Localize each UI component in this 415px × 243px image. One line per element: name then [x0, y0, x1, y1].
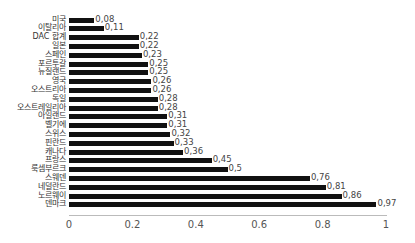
category-label: 노르웨이	[38, 191, 66, 200]
category-label: 스위스	[45, 129, 66, 138]
bar	[69, 97, 158, 102]
bar	[69, 62, 148, 67]
category-label: 영국	[52, 76, 66, 85]
bar	[69, 35, 139, 40]
value-label: 0,36	[184, 147, 203, 156]
value-label: 0,86	[343, 191, 362, 200]
bar	[69, 18, 94, 23]
horizontal-bar-chart: 미국0,08이탈리아0,11DAC 합계0,22일본0,22스페인0,23포르투…	[0, 0, 415, 243]
category-label: DAC 합계	[33, 32, 66, 41]
x-tick-label: 0	[66, 219, 72, 230]
category-label: 독일	[52, 94, 66, 103]
bar	[69, 158, 212, 163]
category-label: 아일랜드	[38, 111, 66, 120]
category-label: 네덜란드	[38, 182, 66, 191]
category-label: 룩셈부르크	[31, 164, 66, 173]
x-tick-label: 0.4	[188, 219, 204, 230]
bar	[69, 194, 342, 199]
x-tick-label: 0.8	[315, 219, 331, 230]
value-label: 0,5	[229, 164, 243, 173]
bar	[69, 141, 174, 146]
value-label: 0,11	[105, 23, 124, 32]
bar	[69, 150, 183, 155]
x-tick-label: 0.2	[124, 219, 140, 230]
x-axis-line	[69, 215, 387, 216]
category-label: 이탈리아	[38, 23, 66, 32]
bar	[69, 44, 139, 49]
bar	[69, 167, 228, 172]
category-label: 덴마크	[45, 199, 66, 208]
bar	[69, 79, 151, 84]
bar	[69, 185, 326, 190]
bar	[69, 53, 142, 58]
category-label: 일본	[52, 41, 66, 50]
x-tick-label: 0.6	[251, 219, 267, 230]
category-label: 프랑스	[45, 155, 66, 164]
bar	[69, 26, 104, 31]
bar	[69, 132, 170, 137]
category-label: 뉴질랜드	[38, 67, 66, 76]
category-label: 오스트리아	[31, 85, 66, 94]
value-label: 0,97	[377, 199, 396, 208]
bar	[69, 123, 167, 128]
bar	[69, 114, 167, 119]
category-label: 스웨덴	[45, 173, 66, 182]
bar	[69, 202, 376, 207]
x-tick-label: 1	[383, 219, 389, 230]
category-label: 핀란드	[45, 138, 66, 147]
bar	[69, 106, 158, 111]
category-label: 스페인	[45, 50, 66, 59]
bar	[69, 70, 148, 75]
category-label: 벨기에	[45, 120, 66, 129]
bar	[69, 88, 151, 93]
bar	[69, 176, 310, 181]
